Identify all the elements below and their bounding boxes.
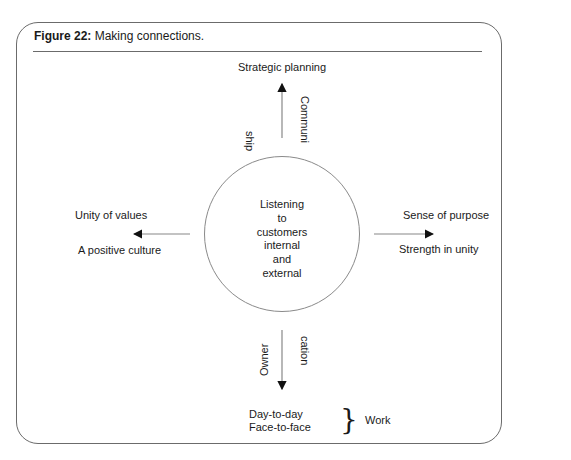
bottom-side-left: Owner bbox=[258, 344, 270, 376]
work-label: Work bbox=[365, 414, 390, 426]
bottom-line-2: Face-to-face bbox=[249, 421, 311, 433]
right-above-label: Sense of purpose bbox=[403, 209, 489, 221]
center-line: Listening bbox=[204, 198, 360, 212]
center-line: and bbox=[204, 253, 360, 267]
left-below-label: A positive culture bbox=[78, 244, 161, 256]
center-line: internal bbox=[204, 239, 360, 253]
top-label: Strategic planning bbox=[238, 61, 326, 73]
brace-icon: } bbox=[340, 406, 358, 434]
left-above-label: Unity of values bbox=[75, 209, 147, 221]
bottom-side-right: cation bbox=[299, 336, 311, 365]
center-line: to bbox=[204, 212, 360, 226]
top-side-right: Communi bbox=[299, 96, 311, 143]
center-line: customers bbox=[204, 226, 360, 240]
top-side-left: ship bbox=[244, 131, 256, 151]
center-text: Listening to customers internal and exte… bbox=[204, 198, 360, 281]
right-below-label: Strength in unity bbox=[399, 243, 479, 255]
center-line: external bbox=[204, 267, 360, 281]
bottom-line-1: Day-to-day bbox=[249, 408, 303, 420]
